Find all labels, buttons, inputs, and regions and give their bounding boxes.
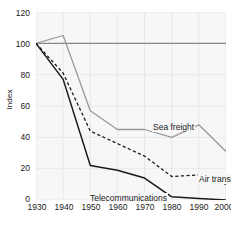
y-tick-120: 120 xyxy=(4,9,30,18)
x-tick-1970: 1970 xyxy=(136,203,155,212)
y-axis-tick-labels: 120 100 80 60 40 20 0 xyxy=(4,0,30,226)
y-tick-40: 40 xyxy=(4,133,30,142)
x-tick-1980: 1980 xyxy=(163,203,182,212)
plot-canvas xyxy=(36,12,226,200)
x-axis-tick-labels: 1930 1940 1950 1960 1970 1980 1990 2000 xyxy=(0,203,231,217)
y-tick-100: 100 xyxy=(4,40,30,49)
annotation-sea-freight-label: Sea freight xyxy=(152,122,195,132)
x-tick-1950: 1950 xyxy=(82,203,101,212)
annotation-telecommunications-label: Telecommunications xyxy=(89,193,168,203)
y-tick-60: 60 xyxy=(4,102,30,111)
series-line-air-transport xyxy=(36,43,226,184)
annotation-sea-freight: Sea freight xyxy=(152,123,195,132)
chart-figure: Index 120 100 80 60 40 20 0 1930 1940 19… xyxy=(0,0,231,226)
y-tick-20: 20 xyxy=(4,164,30,173)
x-tick-1960: 1960 xyxy=(109,203,128,212)
x-tick-2000: 2000 xyxy=(215,203,231,212)
annotation-telecommunications: Telecommunications xyxy=(89,194,168,203)
y-tick-80: 80 xyxy=(4,71,30,80)
series-line-sea-freight xyxy=(36,36,226,152)
annotation-air-transport-label: Air transport xyxy=(198,174,231,184)
annotation-air-transport: Air transport xyxy=(198,175,231,184)
x-tick-1990: 1990 xyxy=(190,203,209,212)
x-tick-1940: 1940 xyxy=(55,203,74,212)
plot-area: Sea freight Air transport Telecommunicat… xyxy=(36,12,226,200)
x-tick-1930: 1930 xyxy=(28,203,47,212)
